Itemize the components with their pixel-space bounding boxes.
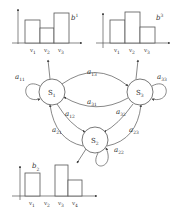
tick-v2: v2 [128,47,135,55]
emission-label: b1 [71,13,78,22]
transition-label-a33: a33 [157,73,167,82]
tick-v3: v3 [57,200,64,208]
bar-v1 [25,20,40,43]
tick-v2: v2 [43,200,50,208]
bar-v3 [140,27,155,43]
transition-label-a13: a13 [87,68,97,77]
emission-arrow-s1 [48,60,50,79]
bar-v2 [125,12,140,43]
transition-label-a31: a31 [87,98,97,107]
transition-label-a32: a32 [116,108,126,117]
bar-v1 [110,20,125,43]
transition-label-a22: a22 [114,146,124,155]
tick-v1: v1 [113,47,120,55]
tick-v3: v3 [57,47,64,55]
tick-v4: v4 [71,200,78,208]
transition-label-a11: a11 [15,73,25,82]
state-s1: S1 [39,79,65,105]
emission-label: b3 [156,13,163,22]
emission-arrow-s2 [77,149,86,163]
tick-v1: v1 [28,200,35,208]
state-s3: S3 [127,79,153,105]
bar-v4 [68,180,82,196]
state-s2: S2 [82,127,108,153]
emission-label: b2 [32,162,39,172]
emission-arrow-s3 [136,60,138,79]
tick-v1: v1 [29,47,36,55]
bar-v1 [25,173,40,196]
emission-histogram-s1: b1 v1 v2 v3 [12,9,82,55]
emission-histogram-s3: b3 v1 v2 v3 [96,12,170,55]
bar-v3 [54,13,69,43]
bar-v2 [40,28,54,43]
tick-v2: v2 [43,47,50,55]
bar-v3 [55,165,68,196]
self-loop-a11 [26,84,40,100]
tick-v3: v3 [143,47,150,55]
hmm-diagram: b1 v1 v2 v3 b3 v1 v2 v3 a13 a31 a12 a21 … [0,0,175,212]
self-loop-a33 [152,84,166,100]
transition-label-a12: a12 [65,110,75,119]
emission-histogram-s2: b2 v1 v2 v3 v4 [12,162,97,208]
